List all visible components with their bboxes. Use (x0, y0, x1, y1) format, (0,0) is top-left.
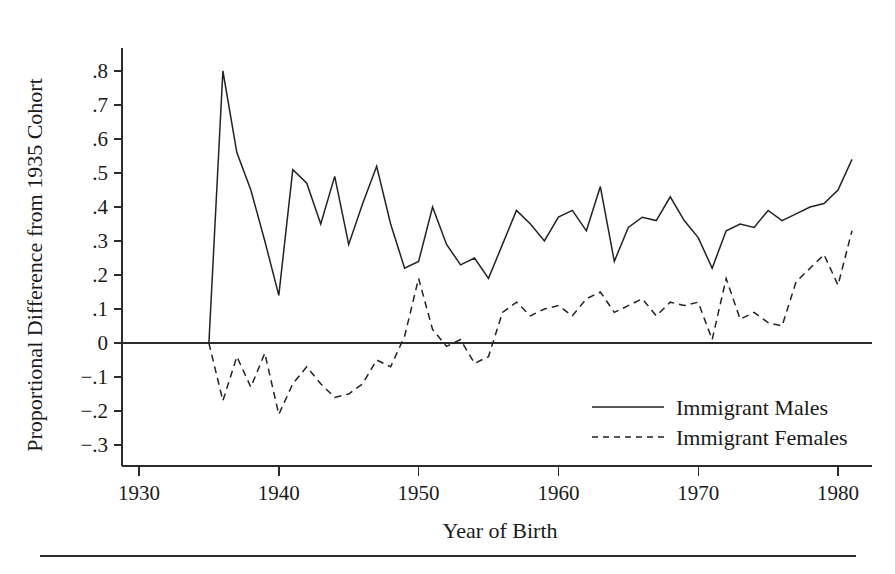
y-axis-ticks: .8.7.6.5.4.3.2.10−.1−.2−.3 (80, 59, 122, 457)
x-tick-label: 1970 (677, 481, 719, 505)
y-tick-label: .1 (92, 297, 108, 321)
y-tick-label: .7 (92, 93, 108, 117)
x-tick-label: 1940 (258, 481, 300, 505)
x-tick-label: 1980 (817, 481, 859, 505)
x-tick-label: 1930 (118, 481, 160, 505)
chart-legend: Immigrant MalesImmigrant Females (592, 395, 848, 450)
series-layer (209, 71, 852, 414)
x-axis-ticks: 193019401950196019701980 (118, 466, 859, 505)
y-tick-label: −.1 (80, 365, 108, 389)
y-tick-label: .4 (92, 195, 108, 219)
y-tick-label: −.3 (80, 433, 108, 457)
x-axis-title: Year of Birth (442, 518, 557, 543)
y-axis-title: Proportional Difference from 1935 Cohort (22, 78, 47, 452)
y-tick-label: .6 (92, 127, 108, 151)
y-tick-label: .3 (92, 229, 108, 253)
legend-label: Immigrant Females (676, 425, 848, 450)
figure-container: Proportional Difference from 1935 Cohort… (0, 0, 895, 574)
y-tick-label: −.2 (80, 399, 108, 423)
y-tick-label: .5 (92, 161, 108, 185)
y-tick-label: 0 (98, 331, 109, 355)
legend-label: Immigrant Males (676, 395, 828, 420)
line-chart: Proportional Difference from 1935 Cohort… (0, 0, 895, 574)
series-line-immigrant-females (209, 231, 852, 415)
series-line-immigrant-males (209, 71, 852, 343)
y-tick-label: .8 (92, 59, 108, 83)
x-tick-label: 1960 (537, 481, 579, 505)
y-tick-label: .2 (92, 263, 108, 287)
x-tick-label: 1950 (398, 481, 440, 505)
